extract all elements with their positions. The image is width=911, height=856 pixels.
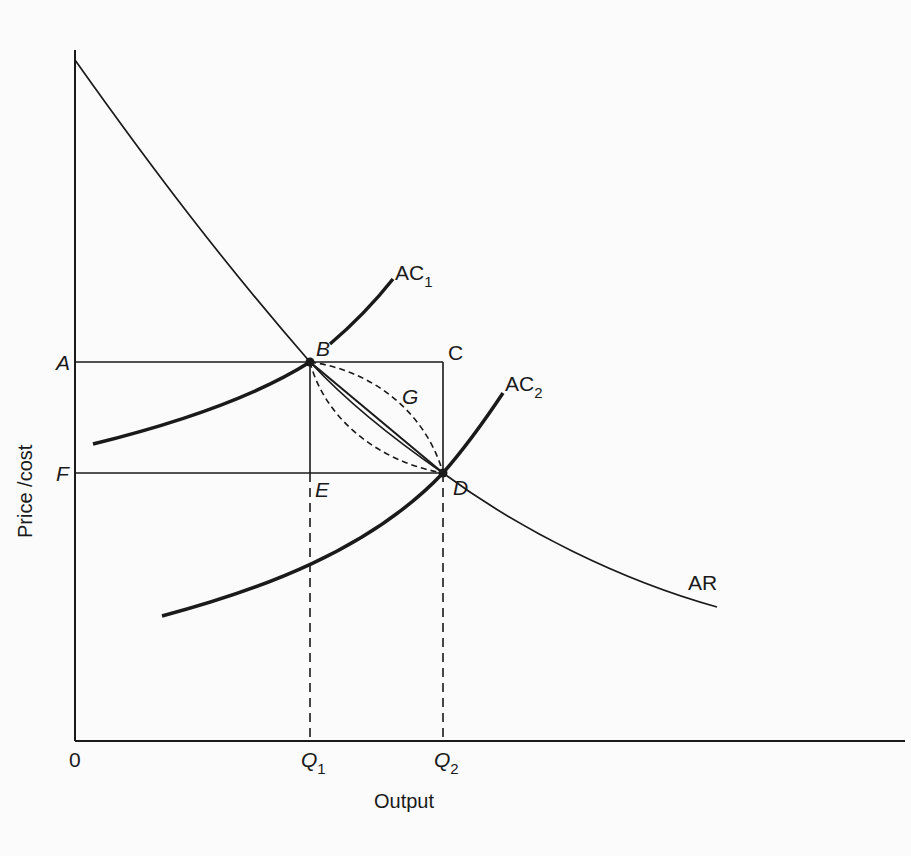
label-ar: AR — [688, 571, 717, 594]
ac1-curve — [93, 362, 310, 444]
ac2-curve — [162, 393, 503, 616]
label-F: F — [56, 462, 70, 485]
x-tick-q2: Q2 — [434, 748, 459, 777]
x-axis-label: Output — [374, 790, 434, 812]
chart-canvas: A F B C D E G AC1 AC2 AR 0 Q1 Q2 Output … — [0, 0, 911, 856]
origin-label: 0 — [69, 748, 81, 771]
label-G: G — [402, 385, 418, 408]
y-axis-label: Price /cost — [14, 444, 36, 538]
point-D — [439, 469, 448, 478]
label-D: D — [453, 476, 468, 499]
label-B: B — [316, 337, 330, 360]
ar-curve — [75, 60, 717, 607]
label-E: E — [315, 478, 330, 501]
label-C: C — [448, 341, 463, 364]
point-B — [306, 358, 315, 367]
x-tick-q1: Q1 — [301, 748, 326, 777]
ac1-curve-upper — [330, 279, 393, 344]
chord-B-D — [310, 362, 443, 473]
label-A: A — [54, 351, 70, 374]
label-ac1: AC1 — [395, 261, 433, 290]
label-ac2: AC2 — [505, 372, 543, 401]
